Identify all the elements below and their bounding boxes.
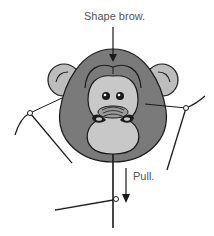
monkey-illustration [0, 0, 214, 236]
right-eye [116, 92, 124, 100]
down-arrow-icon [122, 168, 130, 203]
left-eye [102, 92, 110, 100]
needle-icon [55, 197, 119, 211]
